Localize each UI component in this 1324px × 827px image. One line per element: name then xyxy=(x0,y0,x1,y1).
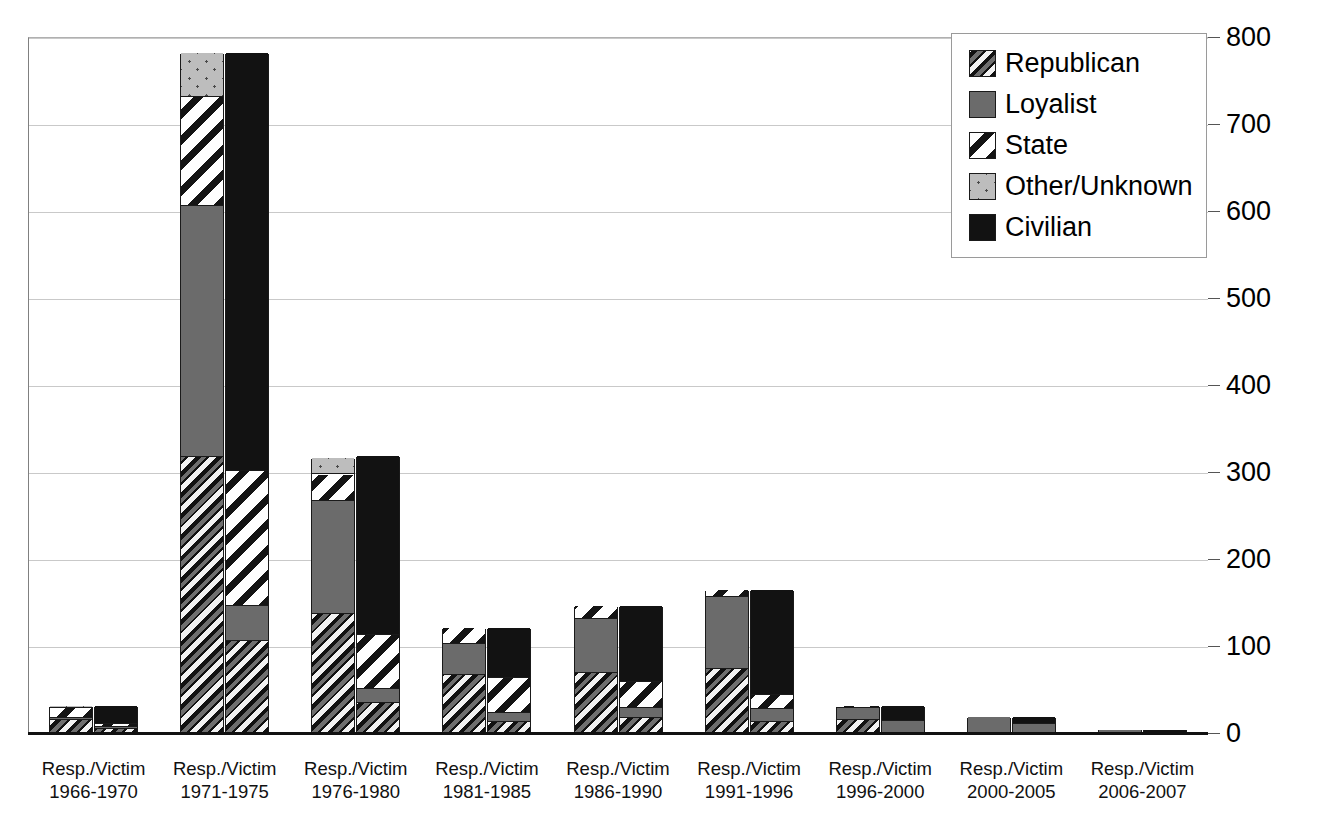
segment-loyalist xyxy=(443,644,485,675)
segment-state xyxy=(312,475,354,501)
y-axis-label-300: 300 xyxy=(1226,459,1271,486)
x-axis-label-line2: 1981-1985 xyxy=(421,780,552,803)
segment-loyalist xyxy=(751,709,793,721)
bar-responsible xyxy=(574,607,618,733)
x-axis-label-line2: 2000-2005 xyxy=(946,780,1077,803)
segment-loyalist xyxy=(50,718,92,720)
segment-republican xyxy=(181,457,223,732)
x-axis-label-group: Resp./Victim1986-1990 xyxy=(552,757,683,803)
legend-item-state[interactable]: State xyxy=(952,125,1206,166)
bar-victim xyxy=(225,54,269,733)
segment-republican xyxy=(488,722,530,732)
x-axis-label-line1: Resp./Victim xyxy=(684,757,815,780)
segment-state xyxy=(837,706,879,708)
segment-loyalist xyxy=(226,606,268,641)
segment-republican xyxy=(837,720,879,732)
bar-victim xyxy=(619,607,663,733)
x-axis-label-line1: Resp./Victim xyxy=(421,757,552,780)
segment-loyalist xyxy=(312,501,354,614)
segment-state xyxy=(706,590,748,597)
segment-republican xyxy=(575,673,617,732)
segment-republican xyxy=(443,675,485,732)
segment-civilian xyxy=(357,456,399,634)
y-axis-tick-500 xyxy=(1208,298,1220,299)
y-axis-label-700: 700 xyxy=(1226,111,1271,138)
segment-republican xyxy=(357,703,399,732)
segment-loyalist xyxy=(1013,724,1055,732)
x-axis-label-line2: 2006-2007 xyxy=(1077,780,1208,803)
y-axis-tick-600 xyxy=(1208,211,1220,212)
y-axis: 0100200300400500600700800 xyxy=(1208,0,1324,827)
x-axis-label-line2: 1966-1970 xyxy=(28,780,159,803)
segment-state xyxy=(751,695,793,709)
segment-loyalist xyxy=(837,708,879,720)
segment-state xyxy=(357,635,399,689)
x-axis-label-group: Resp./Victim2000-2005 xyxy=(946,757,1077,803)
legend-swatch-icon xyxy=(969,173,996,200)
legend-label: Other/Unknown xyxy=(1005,173,1193,200)
x-axis-label-group: Resp./Victim1966-1970 xyxy=(28,757,159,803)
legend-swatch-icon xyxy=(969,91,996,118)
segment-civilian xyxy=(882,706,924,721)
y-axis-label-800: 800 xyxy=(1226,24,1271,51)
bar-responsible xyxy=(180,54,224,733)
segment-republican xyxy=(226,641,268,732)
legend-item-republican[interactable]: Republican xyxy=(952,43,1206,84)
y-axis-label-0: 0 xyxy=(1226,720,1241,747)
x-axis-label-line1: Resp./Victim xyxy=(946,757,1077,780)
bar-responsible xyxy=(49,707,93,733)
segment-state xyxy=(226,471,268,606)
bar-responsible xyxy=(442,629,486,733)
bar-responsible xyxy=(705,591,749,733)
segment-state xyxy=(575,606,617,619)
legend: RepublicanLoyalistStateOther/UnknownCivi… xyxy=(951,33,1207,258)
bar-victim xyxy=(881,707,925,733)
legend-item-loyalist[interactable]: Loyalist xyxy=(952,84,1206,125)
x-axis-label-line2: 1991-1996 xyxy=(684,780,815,803)
segment-civilian xyxy=(751,590,793,695)
segment-civilian xyxy=(620,606,662,682)
bar-responsible xyxy=(311,459,355,733)
legend-label: Civilian xyxy=(1005,214,1092,241)
x-axis-baseline xyxy=(28,732,1208,735)
bar-chart: 0100200300400500600700800 Resp./Victim19… xyxy=(0,0,1324,827)
x-axis-label-group: Resp./Victim2006-2007 xyxy=(1077,757,1208,803)
segment-civilian xyxy=(1013,717,1055,724)
segment-republican xyxy=(751,722,793,732)
segment-state xyxy=(181,97,223,206)
y-axis-label-200: 200 xyxy=(1226,546,1271,573)
segment-republican xyxy=(50,720,92,732)
segment-state xyxy=(95,724,137,727)
legend-swatch-icon xyxy=(969,132,996,159)
segment-civilian xyxy=(226,53,268,471)
segment-civilian xyxy=(95,706,137,724)
segment-state xyxy=(50,708,92,718)
legend-item-other-unknown[interactable]: Other/Unknown xyxy=(952,166,1206,207)
segment-other-unknown xyxy=(50,706,92,708)
bar-victim xyxy=(1012,718,1056,733)
segment-state xyxy=(488,678,530,713)
x-axis-label-line2: 1996-2000 xyxy=(815,780,946,803)
segment-state xyxy=(443,628,485,645)
y-axis-tick-0 xyxy=(1208,733,1220,734)
y-axis-label-600: 600 xyxy=(1226,198,1271,225)
legend-item-civilian[interactable]: Civilian xyxy=(952,207,1206,248)
x-axis-label-line1: Resp./Victim xyxy=(552,757,683,780)
x-axis-label-line1: Resp./Victim xyxy=(1077,757,1208,780)
legend-label: State xyxy=(1005,132,1068,159)
segment-loyalist xyxy=(620,708,662,718)
segment-other-unknown xyxy=(312,458,354,475)
segment-civilian xyxy=(488,628,530,678)
y-axis-tick-800 xyxy=(1208,37,1220,38)
x-axis-label-group: Resp./Victim1991-1996 xyxy=(684,757,815,803)
segment-loyalist xyxy=(95,727,137,729)
segment-loyalist xyxy=(488,713,530,722)
x-axis-label-group: Resp./Victim1981-1985 xyxy=(421,757,552,803)
segment-loyalist xyxy=(575,619,617,673)
segment-republican xyxy=(620,718,662,732)
x-axis-label-line1: Resp./Victim xyxy=(290,757,421,780)
segment-other-unknown xyxy=(181,53,223,97)
x-axis-label-group: Resp./Victim1996-2000 xyxy=(815,757,946,803)
legend-label: Loyalist xyxy=(1005,91,1097,118)
bar-victim xyxy=(356,457,400,733)
